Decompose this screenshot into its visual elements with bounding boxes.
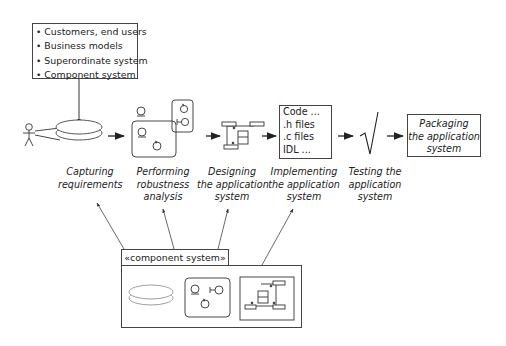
class-diagram-icon	[222, 122, 264, 149]
component-package-body	[121, 265, 302, 328]
package-arrow-capture	[97, 203, 124, 249]
step-label-capture: Capturingrequirements	[58, 166, 122, 191]
inputs-list: Customers, end users Business models Sup…	[32, 23, 138, 79]
package-arrow-robustness	[163, 209, 174, 249]
component-package-tab: «component system»	[121, 249, 229, 266]
packaging-label-line: Packaging	[408, 118, 480, 131]
step-label-test: Testing theapplicationsystem	[345, 166, 405, 204]
use-case-icon	[56, 120, 102, 140]
packaging-label-line: the application	[408, 131, 480, 144]
package-class-diagram-icon	[240, 277, 294, 320]
inputs-item: Customers, end users	[36, 25, 137, 39]
inputs-item: Component system	[36, 68, 137, 82]
code-line: .c files	[283, 131, 331, 144]
package-arrow-design	[218, 209, 228, 249]
package-use-case-icon	[129, 285, 173, 305]
code-line: Code ...	[283, 106, 331, 119]
actor-icon	[23, 124, 60, 146]
check-icon	[360, 112, 378, 154]
inputs-item: Business models	[36, 39, 137, 53]
step-label-design: Designingthe applicationsystem	[197, 166, 267, 204]
code-artifacts-box: Code ... .h files .c files IDL ...	[279, 105, 332, 159]
code-line: IDL ...	[283, 144, 331, 157]
robustness-icon	[132, 100, 193, 157]
packaging-step-box: Packaging the application system	[407, 114, 481, 157]
step-label-implement: Implementingthe applicationsystem	[268, 166, 340, 204]
package-robustness-icon	[185, 278, 230, 317]
step-label-robustness: Performingrobustnessanalysis	[133, 166, 193, 204]
package-arrow-implement	[262, 209, 293, 265]
inputs-item: Superordinate system	[36, 54, 137, 68]
packaging-label-line: system	[408, 143, 480, 156]
code-line: .h files	[283, 119, 331, 132]
